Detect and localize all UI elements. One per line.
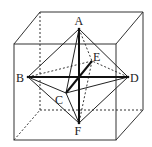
vertex-B-dot xyxy=(27,76,30,79)
cube-front-face xyxy=(14,44,116,140)
label-C: C xyxy=(55,93,63,107)
edge-CD xyxy=(66,77,128,93)
cube-edge-bottom-right xyxy=(116,110,143,140)
cube-edge-top-right xyxy=(116,12,143,44)
edge-AD xyxy=(79,29,128,77)
edge-BE xyxy=(28,61,92,77)
label-D: D xyxy=(130,71,139,85)
edge-AB xyxy=(28,29,79,77)
cube-edge-top-left xyxy=(14,12,40,44)
edge-AC xyxy=(66,29,79,93)
vertex-A-dot xyxy=(78,28,81,31)
edge-CF xyxy=(66,93,79,123)
label-E: E xyxy=(93,50,100,64)
label-B: B xyxy=(16,71,24,85)
vertex-D-dot xyxy=(127,76,130,79)
edge-BC xyxy=(28,77,66,93)
octahedron-in-cube-diagram: A B C D E F xyxy=(0,0,152,147)
edge-DF xyxy=(79,77,128,123)
edge-BF xyxy=(28,77,79,123)
label-F: F xyxy=(75,124,82,138)
cube-hidden-edge-bottom-left xyxy=(14,110,40,140)
edge-AE xyxy=(79,29,92,61)
label-A: A xyxy=(75,14,84,28)
